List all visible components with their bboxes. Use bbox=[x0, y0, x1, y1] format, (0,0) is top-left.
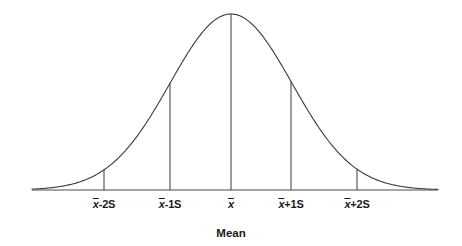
tick-label-mean: x bbox=[228, 198, 234, 210]
tick-suffix: +2S bbox=[350, 198, 369, 210]
tick-suffix: -2S bbox=[99, 198, 116, 210]
x-bar-symbol: x bbox=[228, 198, 234, 210]
x-bar-symbol: x bbox=[93, 198, 99, 210]
tick-label-minus-1s: x-1S bbox=[159, 198, 181, 210]
tick-label-plus-1s: x+1S bbox=[278, 198, 303, 210]
drop-lines-group bbox=[104, 14, 357, 190]
bell-curve-path bbox=[32, 14, 438, 189]
tick-suffix: +1S bbox=[284, 198, 303, 210]
tick-label-minus-2s: x-2S bbox=[93, 198, 115, 210]
x-bar-symbol: x bbox=[159, 198, 165, 210]
axis-caption-mean: Mean bbox=[216, 228, 245, 240]
curve-group bbox=[32, 14, 438, 189]
tick-label-plus-2s: x+2S bbox=[344, 198, 369, 210]
normal-distribution-figure: x-2S x-1S x x+1S x+2S Mean bbox=[0, 0, 462, 246]
x-bar-symbol: x bbox=[278, 198, 284, 210]
tick-suffix: -1S bbox=[165, 198, 182, 210]
x-bar-symbol: x bbox=[344, 198, 350, 210]
